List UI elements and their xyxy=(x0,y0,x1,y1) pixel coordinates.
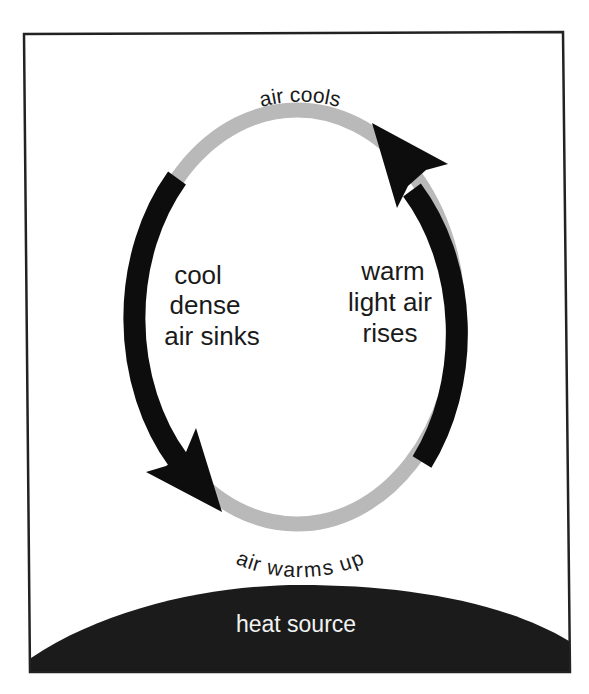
left-label-line: cool xyxy=(174,260,222,290)
heat-source-label: heat source xyxy=(236,611,356,637)
convection-diagram: heat source air cools air warms up cool … xyxy=(0,0,589,694)
left-label-line: air sinks xyxy=(164,321,259,351)
right-label-line: rises xyxy=(363,318,418,348)
right-label-line: light air xyxy=(348,287,432,317)
left-label-line: dense xyxy=(170,290,241,320)
right-label-line: warm xyxy=(360,256,425,286)
